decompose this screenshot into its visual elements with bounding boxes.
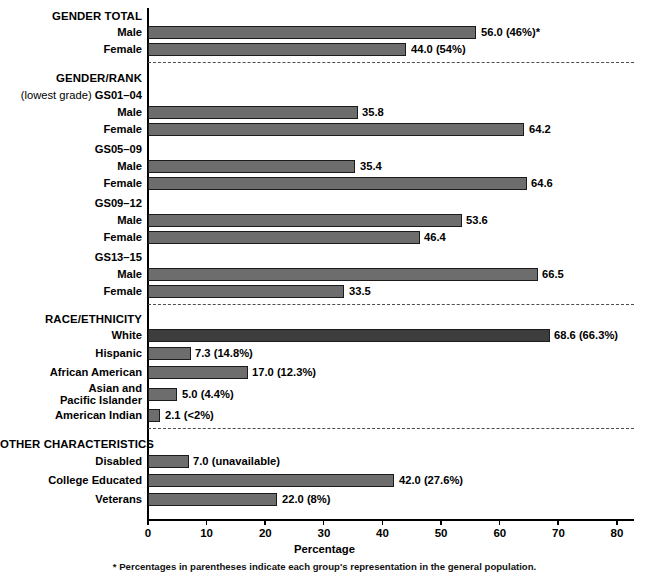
bar-gender-total-female: [148, 43, 406, 56]
bar-value-hispanic: 7.3 (14.8%): [195, 345, 253, 361]
subheader-gs13-15: GS13–15: [0, 249, 649, 265]
x-tick-label-10: 10: [187, 527, 227, 539]
x-tick-0: [147, 519, 149, 525]
bar-gs05-male: [148, 160, 355, 173]
x-tick-80: [616, 519, 618, 525]
bar-value-veterans: 22.0 (8%): [282, 491, 331, 507]
section-header-race-ethnicity: RACE/ETHNICITY: [0, 311, 649, 327]
x-tick-60: [499, 519, 501, 525]
x-tick-label-50: 50: [421, 527, 461, 539]
bar-value-african-american: 17.0 (12.3%): [252, 364, 316, 380]
bar-row-american-indian: American Indian 2.1 (<2%): [0, 407, 649, 423]
subheader-prefix: (lowest grade): [21, 89, 95, 101]
row-label: Male: [0, 212, 142, 228]
bar-gs13-female: [148, 285, 344, 298]
subheader-gs09-12: GS09–12: [0, 195, 649, 211]
row-label: African American: [0, 364, 142, 380]
section-label: OTHER CHARACTERISTICS: [0, 436, 142, 452]
bar-value-college-educated: 42.0 (27.6%): [399, 472, 463, 488]
bar-gs09-female: [148, 231, 420, 244]
section-header-gender-total: GENDER TOTAL: [0, 8, 649, 24]
bar-row-gs05-female: Female 64.6: [0, 175, 649, 191]
subheader-label: GS09–12: [0, 195, 142, 211]
bar-value-gs13-female: 33.5: [349, 283, 371, 299]
subheader-label: GS13–15: [0, 249, 142, 265]
bar-value-gs01-female: 64.2: [529, 121, 551, 137]
x-axis-line: [147, 519, 634, 521]
bar-row-college-educated: College Educated 42.0 (27.6%): [0, 472, 649, 488]
subheader-label: (lowest grade) GS01–04: [0, 87, 142, 103]
bar-gender-total-male: [148, 26, 476, 39]
bar-value-white: 68.6 (66.3%): [554, 327, 618, 343]
row-label: American Indian: [0, 407, 142, 423]
bar-row-gs05-male: Male 35.4: [0, 158, 649, 174]
row-label: Disabled: [0, 453, 142, 469]
bar-row-african-american: African American 17.0 (12.3%): [0, 364, 649, 380]
bar-value-gs09-male: 53.6: [466, 212, 488, 228]
row-label: Female: [0, 229, 142, 245]
bar-chart: GENDER TOTAL Male 56.0 (46%)* Female 44.…: [0, 0, 649, 574]
x-tick-40: [382, 519, 384, 525]
bar-value-gs05-male: 35.4: [360, 158, 382, 174]
row-label-line1: Asian and: [89, 382, 142, 395]
bar-gs09-male: [148, 214, 462, 227]
x-tick-label-80: 80: [597, 527, 637, 539]
section-separator-3: [148, 428, 634, 429]
x-tick-10: [206, 519, 208, 525]
subheader-gs05-09: GS05–09: [0, 141, 649, 157]
section-label: GENDER TOTAL: [0, 8, 142, 24]
row-label: Female: [0, 41, 142, 57]
bar-row-white: White 68.6 (66.3%): [0, 327, 649, 343]
section-header-other-characteristics: OTHER CHARACTERISTICS: [0, 436, 649, 452]
x-tick-50: [440, 519, 442, 525]
section-label: RACE/ETHNICITY: [0, 311, 142, 327]
bar-row-gs13-female: Female 33.5: [0, 283, 649, 299]
bar-american-indian: [148, 409, 160, 422]
x-tick-30: [323, 519, 325, 525]
row-label-line2: Pacific Islander: [60, 394, 142, 407]
bar-value-gs13-male: 66.5: [542, 266, 564, 282]
bar-row-gs09-male: Male 53.6: [0, 212, 649, 228]
bar-gs05-female: [148, 177, 527, 190]
bar-value-american-indian: 2.1 (<2%): [165, 407, 214, 423]
chart-footnote: * Percentages in parentheses indicate ea…: [0, 561, 649, 572]
x-tick-label-60: 60: [480, 527, 520, 539]
row-label: Male: [0, 158, 142, 174]
row-label: Female: [0, 283, 142, 299]
bar-value-asian-pacific-islander: 5.0 (4.4%): [182, 386, 234, 402]
bar-value-gs01-male: 35.8: [362, 104, 384, 120]
section-separator-2: [148, 304, 634, 305]
subheader-label: GS05–09: [0, 141, 142, 157]
bar-row-gs09-female: Female 46.4: [0, 229, 649, 245]
x-tick-70: [557, 519, 559, 525]
row-label: College Educated: [0, 472, 142, 488]
bar-row-veterans: Veterans 22.0 (8%): [0, 491, 649, 507]
row-label: Female: [0, 121, 142, 137]
bar-row-disabled: Disabled 7.0 (unavailable): [0, 453, 649, 469]
x-tick-label-20: 20: [245, 527, 285, 539]
section-header-gender-rank: GENDER/RANK: [0, 70, 649, 86]
bar-row-gender-total-female: Female 44.0 (54%): [0, 41, 649, 57]
bar-white: [148, 329, 550, 342]
x-tick-label-30: 30: [304, 527, 344, 539]
x-tick-label-0: 0: [128, 527, 168, 539]
bar-gs01-male: [148, 106, 358, 119]
bar-value-gender-total-female: 44.0 (54%): [411, 41, 466, 57]
bar-value-gs09-female: 46.4: [424, 229, 446, 245]
bar-row-gs13-male: Male 66.5: [0, 266, 649, 282]
row-label: Hispanic: [0, 345, 142, 361]
bar-disabled: [148, 455, 189, 468]
bar-row-gs01-male: Male 35.8: [0, 104, 649, 120]
bar-value-gender-total-male: 56.0 (46%)*: [481, 24, 540, 40]
bar-row-gender-total-male: Male 56.0 (46%)*: [0, 24, 649, 40]
section-separator-1: [148, 62, 634, 63]
bar-row-gs01-female: Female 64.2: [0, 121, 649, 137]
bar-college-educated: [148, 474, 394, 487]
x-tick-label-70: 70: [538, 527, 578, 539]
subheader-gs01-04: (lowest grade) GS01–04: [0, 87, 649, 103]
bar-african-american: [148, 366, 248, 379]
x-axis-title: Percentage: [0, 543, 649, 555]
bar-gs01-female: [148, 123, 524, 136]
bar-asian-pacific-islander: [148, 388, 177, 401]
bar-row-asian-pacific-islander: Asian and Pacific Islander 5.0 (4.4%): [0, 386, 649, 402]
